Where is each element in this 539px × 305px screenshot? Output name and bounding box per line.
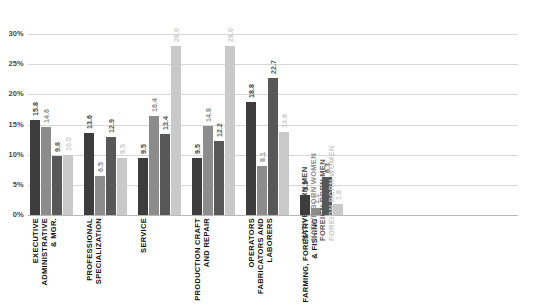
bar-value-label: 9.5	[194, 114, 201, 154]
bar-value-label: 6.5	[97, 132, 104, 172]
bar-groups: 15.814.69.810.013.66.512.99.59.516.413.4…	[28, 22, 518, 215]
bar	[160, 134, 170, 215]
y-axis-tick: 25%	[0, 59, 24, 68]
bar	[117, 158, 127, 215]
bar-value-label: 12.2	[216, 97, 223, 137]
bar	[41, 127, 51, 215]
bar-value-label: 22.7	[270, 34, 277, 74]
x-axis-label-line: ADMINISTRATIVE	[40, 218, 49, 303]
bar-group: 9.514.812.228.0	[192, 22, 236, 215]
bar-value-label: 28.0	[173, 2, 180, 42]
bar	[149, 116, 159, 215]
x-axis-label-line: & MGR.	[49, 218, 58, 303]
x-axis-label-line: OPERATORS	[247, 218, 256, 303]
chart-legend: NATIVE BORN MENNATIVE BORN WOMENFOREIGN …	[309, 132, 369, 232]
bar-group: 18.88.122.713.8	[246, 22, 290, 215]
bar-group: 9.516.413.428.0	[138, 22, 182, 215]
legend-item: FOREIGN BORN MEN	[318, 159, 327, 241]
legend-item: NATIVE BORN MEN	[300, 167, 309, 241]
x-axis-category-label: PROFESSIONALSPECIALIZATION	[85, 218, 103, 303]
bar	[138, 158, 148, 215]
bar	[95, 176, 105, 215]
bar-value-label: 9.8	[54, 112, 61, 152]
bar-value-label: 13.6	[86, 89, 93, 129]
x-axis-category-label: PRODUCTION CRAFTAND REPAIR	[193, 218, 211, 303]
bar-value-label: 13.4	[162, 90, 169, 130]
gridline	[28, 215, 518, 216]
bar-value-label: 28.0	[227, 2, 234, 42]
x-axis-label-line: AND REPAIR	[202, 218, 211, 303]
bar-value-label: 16.4	[151, 72, 158, 112]
bar-group: 13.66.512.99.5	[84, 22, 128, 215]
x-axis-category-label: SERVICE	[139, 218, 148, 303]
y-axis-tick: 30%	[0, 29, 24, 38]
bar-group: 15.814.69.810.0	[30, 22, 74, 215]
y-axis-tick: 10%	[0, 150, 24, 159]
bar-value-label: 9.5	[140, 114, 147, 154]
x-axis-category-labels: EXECUTIVEADMINISTRATIVE& MGR.PROFESSIONA…	[28, 218, 518, 305]
bar-chart: 0%5%10%15%20%25%30% 15.814.69.810.013.66…	[0, 0, 539, 305]
y-axis-tick: 5%	[0, 180, 24, 189]
bar-value-label: 10.0	[65, 111, 72, 151]
bar	[257, 166, 267, 215]
bar	[246, 102, 256, 215]
y-axis-tick: 20%	[0, 89, 24, 98]
bar	[192, 158, 202, 215]
bar	[268, 78, 278, 215]
y-axis-tick: 15%	[0, 120, 24, 129]
x-axis-category-label: EXECUTIVEADMINISTRATIVE& MGR.	[31, 218, 58, 303]
bar	[214, 141, 224, 215]
x-axis-label-line: FABRICATORS AND	[256, 218, 265, 303]
x-axis-label-line: PROFESSIONAL	[85, 218, 94, 303]
legend-item: FOREIGN BORN WOMEN	[327, 146, 336, 241]
bar	[203, 126, 213, 215]
x-axis-label-line: EXECUTIVE	[31, 218, 40, 303]
x-axis-label-line: SPECIALIZATION	[94, 218, 103, 303]
bar	[52, 156, 62, 215]
bar-value-label: 18.8	[248, 58, 255, 98]
bar-value-label: 9.5	[119, 114, 126, 154]
bar	[84, 133, 94, 215]
bar-value-label: 14.6	[43, 83, 50, 123]
y-axis-tick: 0%	[0, 210, 24, 219]
bar-value-label: 13.8	[281, 88, 288, 128]
bar-value-label: 12.9	[108, 93, 115, 133]
x-axis-label-line: LABORERS	[265, 218, 274, 303]
bar	[30, 120, 40, 215]
x-axis-category-label: OPERATORSFABRICATORS ANDLABORERS	[247, 218, 274, 303]
x-axis-label-line: PRODUCTION CRAFT	[193, 218, 202, 303]
bar	[225, 46, 235, 215]
bar	[63, 155, 73, 215]
x-axis-label-line: SERVICE	[139, 218, 148, 303]
bar-value-label: 8.1	[259, 122, 266, 162]
bar	[171, 46, 181, 215]
bar	[279, 132, 289, 215]
bar-value-label: 14.8	[205, 82, 212, 122]
bar	[106, 137, 116, 215]
legend-item: NATIVE BORN WOMEN	[309, 153, 318, 241]
bar-value-label: 15.8	[32, 76, 39, 116]
